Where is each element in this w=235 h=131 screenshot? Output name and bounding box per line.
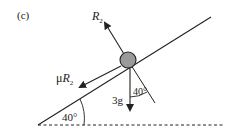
friction-force-label: μR2: [56, 71, 74, 87]
weight-force-label: 3g: [112, 94, 124, 106]
inclined-plane-diagram: (c) R2 μR2 3g 40° 40°: [0, 0, 235, 131]
normal-force-arrow: [105, 23, 124, 54]
normal-line-extension: [131, 65, 155, 103]
normal-force-label: R2: [91, 9, 103, 25]
incline-angle-arc: [80, 99, 84, 125]
incline-angle-label: 40°: [62, 111, 77, 123]
particle-ball: [120, 52, 136, 68]
part-label: (c): [17, 9, 30, 22]
weight-normal-angle-label: 40°: [133, 86, 147, 97]
